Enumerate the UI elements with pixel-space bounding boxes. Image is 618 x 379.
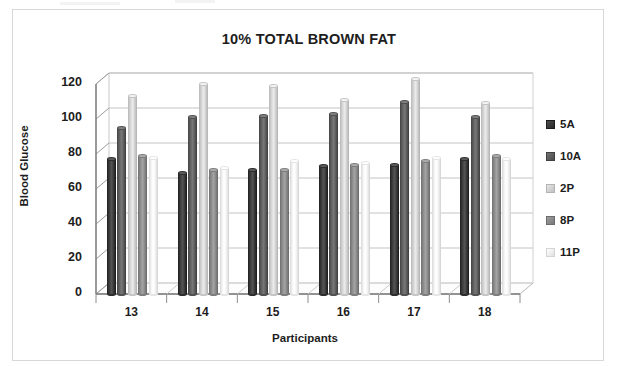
scan-artifact — [60, 2, 120, 5]
legend-label: 8P — [560, 214, 574, 226]
legend-label: 11P — [560, 246, 580, 258]
scan-artifact — [175, 0, 215, 3]
legend-label: 5A — [560, 118, 575, 130]
y-axis-title: Blood Glucose — [18, 111, 30, 221]
legend-swatch-icon — [546, 152, 555, 161]
x-axis-title: Participants — [85, 332, 525, 344]
legend-swatch-icon — [546, 120, 555, 129]
chart-frame — [12, 9, 604, 361]
legend-swatch-icon — [546, 248, 555, 257]
legend: 5A10A2P8P11P — [546, 108, 610, 268]
legend-item-8P[interactable]: 8P — [546, 204, 610, 236]
chart-title: 10% TOTAL BROWN FAT — [0, 31, 618, 47]
legend-item-11P[interactable]: 11P — [546, 236, 610, 268]
legend-item-2P[interactable]: 2P — [546, 172, 610, 204]
legend-item-5A[interactable]: 5A — [546, 108, 610, 140]
legend-swatch-icon — [546, 184, 555, 193]
legend-swatch-icon — [546, 216, 555, 225]
legend-label: 2P — [560, 182, 574, 194]
legend-item-10A[interactable]: 10A — [546, 140, 610, 172]
legend-label: 10A — [560, 150, 581, 162]
